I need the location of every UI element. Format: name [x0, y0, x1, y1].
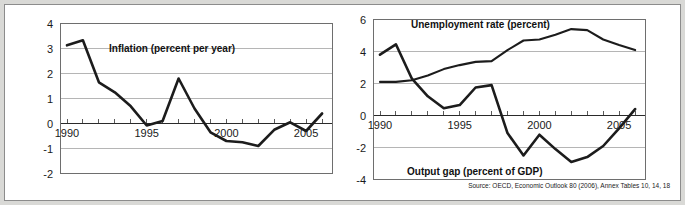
source-note: Source: OECD, Economic Outlook 80 (2006)… — [468, 182, 670, 190]
gridlines-horizontal — [61, 49, 332, 149]
ytick-label: 3 — [47, 43, 53, 55]
xtick-label: 2000 — [527, 119, 551, 131]
ytick-label: 4 — [47, 18, 53, 30]
series-annotation-output-gap: Output gap (percent of GDP) — [407, 166, 543, 177]
ytick-label: 2 — [47, 68, 53, 80]
ytick-label: 6 — [360, 14, 366, 26]
x-tickmarks — [380, 111, 635, 115]
xtick-label: 1990 — [55, 127, 79, 139]
ytick-label: 0 — [47, 118, 53, 130]
series-annotation-inflation: Inflation (percent per year) — [109, 43, 235, 54]
xtick-label: 1995 — [134, 127, 158, 139]
ytick-label: -4 — [356, 174, 366, 186]
ytick-label: -2 — [356, 142, 366, 154]
ytick-label: 0 — [360, 110, 366, 122]
chart-panels: 4 3 2 1 0 -1 -2 1990 1995 2000 2005 Infl… — [5, 5, 680, 200]
x-tickmarks — [67, 119, 322, 123]
ytick-label: 1 — [47, 93, 53, 105]
figure-panel: 4 3 2 1 0 -1 -2 1990 1995 2000 2005 Infl… — [4, 4, 681, 201]
xtick-label: 1990 — [368, 119, 392, 131]
inflation-svg: 4 3 2 1 0 -1 -2 1990 1995 2000 2005 Infl… — [5, 5, 345, 202]
chart-inflation: 4 3 2 1 0 -1 -2 1990 1995 2000 2005 Infl… — [5, 5, 345, 200]
series-line-unemployment — [380, 29, 635, 82]
xtick-label: 2005 — [294, 127, 318, 139]
series-line-inflation — [67, 40, 322, 146]
series-annotation-unemployment: Unemployment rate (percent) — [411, 19, 550, 30]
ytick-label: -1 — [43, 143, 53, 155]
ytick-label: 2 — [360, 78, 366, 90]
source-note-svg: Source: OECD, Economic Outlook 80 (2006)… — [422, 180, 672, 192]
xtick-label: 1995 — [447, 119, 471, 131]
gridlines-horizontal — [374, 52, 645, 148]
chart-unemployment-output-gap: 6 4 2 0 -2 -4 1990 1995 2000 2005 Unempl… — [345, 5, 680, 200]
unemployment-output-gap-svg: 6 4 2 0 -2 -4 1990 1995 2000 2005 Unempl… — [345, 5, 680, 202]
ytick-label: -2 — [43, 168, 53, 180]
series-line-output-gap — [380, 44, 635, 162]
plot-frame — [374, 20, 646, 180]
ytick-label: 4 — [360, 46, 366, 58]
source-note-wrap: Source: OECD, Economic Outlook 80 (2006)… — [422, 178, 672, 196]
